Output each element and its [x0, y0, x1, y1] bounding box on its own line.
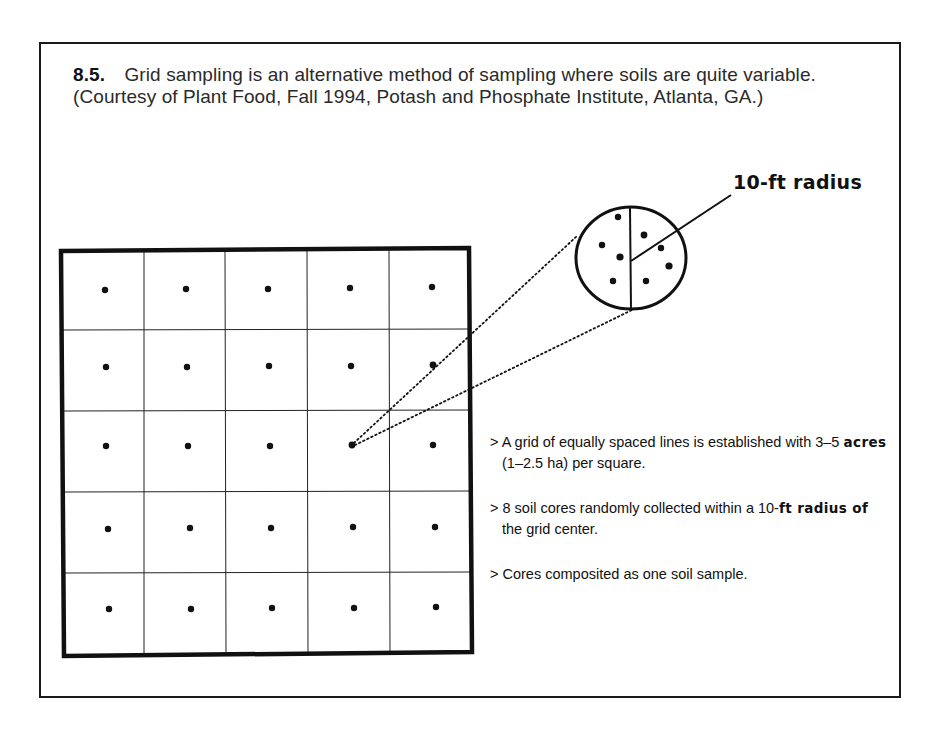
note-text: 8 soil cores randomly collected within a… — [503, 500, 779, 516]
inset-sampling-circle — [576, 195, 731, 309]
bullet-marker: > — [490, 566, 503, 582]
grid-sampling-diagram — [0, 0, 931, 731]
note-text: Cores composited as one soil sample. — [503, 566, 748, 582]
note-soil-cores: > 8 soil cores randomly collected within… — [490, 498, 890, 540]
field-boundary — [61, 248, 472, 656]
note-emphasis: acres — [843, 434, 886, 450]
radius-label: 10-ft radius — [733, 171, 862, 193]
sample-points — [102, 284, 439, 612]
grid-lines — [62, 250, 471, 654]
note-composite: > Cores composited as one soil sample. — [490, 564, 890, 585]
note-grid-spacing: > A grid of equally spaced lines is esta… — [490, 432, 890, 474]
note-emphasis: ft radius of — [779, 500, 868, 516]
sampling-grid — [61, 248, 472, 656]
note-text: the grid center. — [502, 521, 598, 537]
diameter-line — [630, 208, 631, 309]
bullet-marker: > — [490, 500, 503, 516]
notes-list: > A grid of equally spaced lines is esta… — [490, 432, 890, 609]
bullet-marker: > — [490, 434, 502, 450]
note-text: (1–2.5 ha) per square. — [502, 455, 645, 471]
note-text: A grid of equally spaced lines is establ… — [502, 434, 844, 450]
